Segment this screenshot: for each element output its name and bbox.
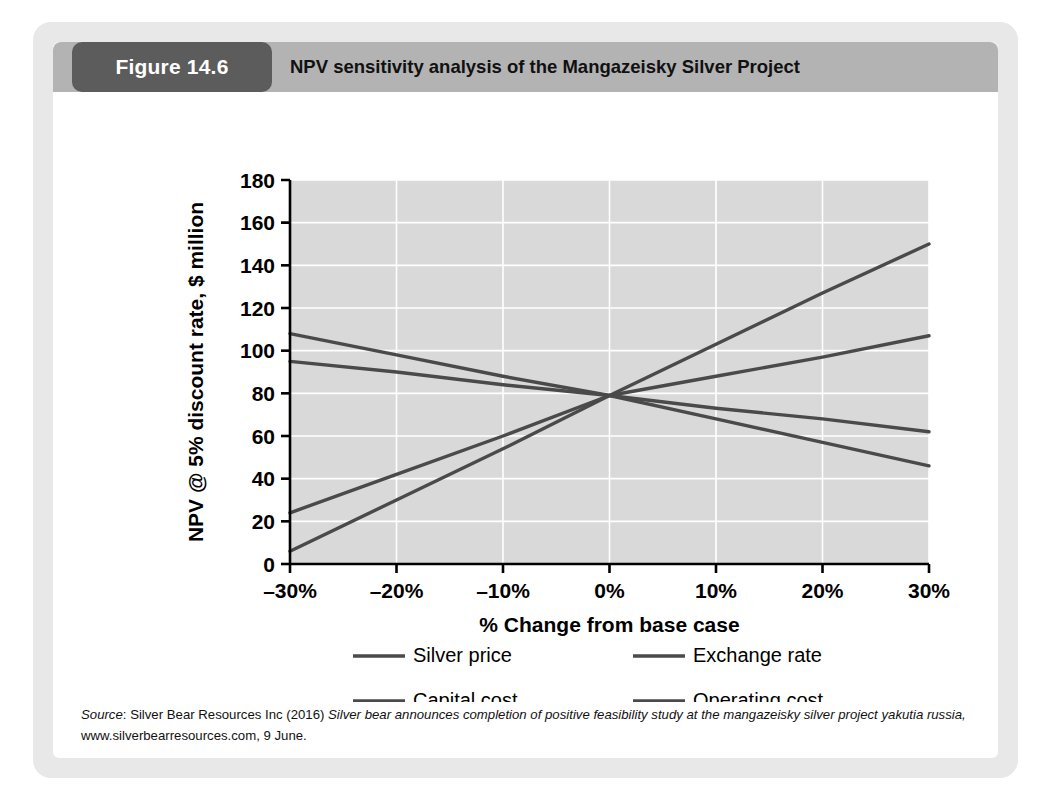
- figure-frame: Figure 14.6 NPV sensitivity analysis of …: [33, 22, 1018, 778]
- source-tail: www.silverbearresources.com, 9 June.: [81, 728, 307, 743]
- x-axis-tick-label: 10%: [695, 579, 737, 602]
- y-axis-tick-label: 180: [240, 169, 275, 192]
- y-axis-tick-label: 140: [240, 254, 275, 277]
- x-axis-title: % Change from base case: [479, 613, 739, 636]
- figure-header: Figure 14.6 NPV sensitivity analysis of …: [53, 42, 998, 92]
- legend-label-operating-cost: Operating cost: [693, 689, 824, 702]
- figure-number-label: Figure 14.6: [115, 55, 228, 79]
- y-axis-tick-label: 0: [263, 553, 275, 576]
- source-publisher: Silver Bear Resources Inc (2016): [130, 707, 328, 722]
- chart-region: 020406080100120140160180–30%–20%–10%0%10…: [53, 92, 998, 702]
- x-axis-tick-label: 30%: [908, 579, 950, 602]
- source-label: Source: [81, 707, 123, 722]
- x-axis-tick-label: –20%: [370, 579, 424, 602]
- y-axis-tick-label: 40: [252, 467, 275, 490]
- x-axis-tick-label: 20%: [801, 579, 843, 602]
- x-axis-tick-label: –30%: [263, 579, 317, 602]
- source-note: Source: Silver Bear Resources Inc (2016)…: [81, 704, 971, 747]
- x-axis-tick-label: 0%: [594, 579, 625, 602]
- figure-number-badge: Figure 14.6: [72, 42, 272, 92]
- legend-label-exchange-rate: Exchange rate: [693, 644, 822, 666]
- y-axis-tick-label: 160: [240, 211, 275, 234]
- figure-card: Figure 14.6 NPV sensitivity analysis of …: [53, 42, 998, 758]
- y-axis-tick-label: 80: [252, 382, 275, 405]
- y-axis-tick-label: 100: [240, 339, 275, 362]
- npv-sensitivity-chart: 020406080100120140160180–30%–20%–10%0%10…: [53, 92, 998, 702]
- figure-title: NPV sensitivity analysis of the Mangazei…: [290, 42, 800, 92]
- y-axis-tick-label: 60: [252, 425, 275, 448]
- y-axis-tick-label: 120: [240, 297, 275, 320]
- legend-label-capital-cost: Capital cost: [413, 689, 518, 702]
- x-axis-tick-label: –10%: [476, 579, 530, 602]
- source-title: Silver bear announces completion of posi…: [328, 707, 966, 722]
- y-axis-title: NPV @ 5% discount rate, $ million: [184, 202, 207, 542]
- legend-label-silver-price: Silver price: [413, 644, 512, 666]
- y-axis-tick-label: 20: [252, 510, 275, 533]
